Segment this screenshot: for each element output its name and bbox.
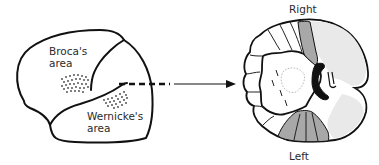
broca-area-label: Broca's area bbox=[49, 45, 87, 69]
broca-label-line2: area bbox=[49, 57, 87, 69]
left-hemisphere-label: Left bbox=[289, 150, 309, 162]
wernicke-label-line2: area bbox=[87, 122, 143, 134]
wernicke-label-line1: Wernicke's bbox=[87, 110, 143, 122]
right-hemisphere-label: Right bbox=[289, 3, 317, 15]
wernicke-area-label: Wernicke's area bbox=[87, 110, 143, 134]
diagram-canvas: Broca's area Wernicke's area Right Left bbox=[0, 0, 379, 165]
coronal-section bbox=[243, 20, 368, 142]
diagram-svg bbox=[0, 0, 379, 165]
broca-label-line1: Broca's bbox=[49, 45, 87, 57]
arrow-head-icon bbox=[226, 80, 236, 88]
broca-area-stipple bbox=[61, 74, 89, 93]
section-indicator bbox=[119, 80, 236, 88]
